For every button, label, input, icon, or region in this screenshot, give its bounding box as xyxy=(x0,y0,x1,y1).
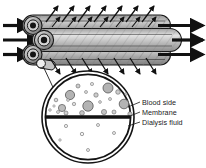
fiber-stub xyxy=(37,59,56,70)
legend-labels: Blood side Membrane Dialysis fluid xyxy=(142,98,183,127)
port-middle xyxy=(34,30,53,49)
fiber-bundle xyxy=(3,6,203,74)
diagram-canvas: Blood side Membrane Dialysis fluid xyxy=(0,0,206,168)
label-membrane: Membrane xyxy=(142,108,177,117)
tube-middle xyxy=(33,29,182,52)
cross-section xyxy=(42,71,138,163)
label-dialysis-fluid: Dialysis fluid xyxy=(142,118,183,127)
label-blood-side: Blood side xyxy=(142,98,176,107)
hemodialyzer-diagram-figure: Blood side Membrane Dialysis fluid xyxy=(0,0,206,168)
